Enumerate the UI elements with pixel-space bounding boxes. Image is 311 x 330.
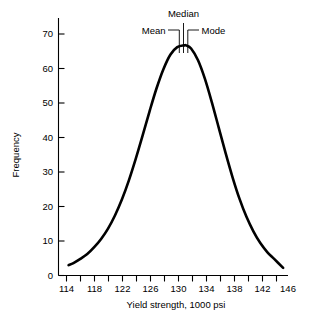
y-axis-title: Frequency bbox=[10, 132, 21, 177]
y-tick-label-30: 30 bbox=[42, 166, 53, 177]
x-tick-label-146: 146 bbox=[280, 283, 296, 294]
x-tick-label-114: 114 bbox=[59, 283, 74, 294]
y-tick-label-60: 60 bbox=[42, 63, 53, 74]
x-tick-label-130: 130 bbox=[171, 283, 187, 294]
y-tick-label-70: 70 bbox=[42, 28, 53, 39]
frequency-distribution-chart: 0 10 20 30 40 50 60 70 Frequency bbox=[0, 0, 311, 330]
y-tick-label-50: 50 bbox=[42, 97, 53, 108]
x-tick-label-122: 122 bbox=[115, 283, 131, 294]
x-tick-label-138: 138 bbox=[227, 283, 243, 294]
y-tick-label-20: 20 bbox=[42, 201, 53, 212]
x-axis-tick-labels: 114 118 122 126 130 134 138 142 146 bbox=[59, 283, 296, 294]
x-tick-label-142: 142 bbox=[255, 283, 271, 294]
x-tick-label-126: 126 bbox=[143, 283, 159, 294]
x-axis-title: Yield strength, 1000 psi bbox=[127, 299, 226, 310]
mode-label: Mode bbox=[202, 25, 226, 36]
y-tick-label-40: 40 bbox=[42, 132, 53, 143]
x-tick-label-134: 134 bbox=[199, 283, 215, 294]
median-label: Median bbox=[168, 8, 199, 19]
chart-canvas: 0 10 20 30 40 50 60 70 Frequency bbox=[0, 0, 311, 330]
y-tick-label-10: 10 bbox=[42, 235, 53, 246]
mean-label: Mean bbox=[142, 25, 166, 36]
y-tick-label-0: 0 bbox=[48, 270, 53, 281]
x-tick-label-118: 118 bbox=[87, 283, 102, 294]
chart-background bbox=[0, 0, 311, 330]
